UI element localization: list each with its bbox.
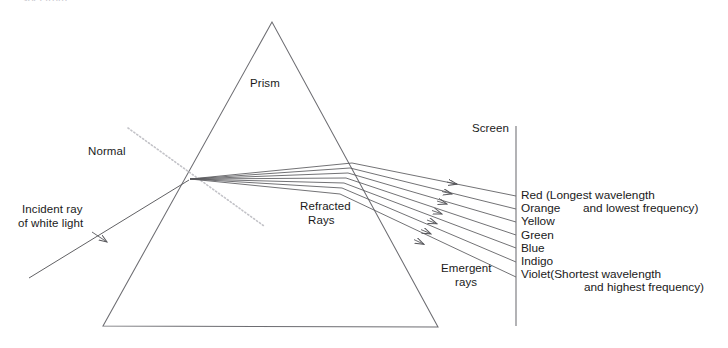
diagram-canvas — [0, 0, 728, 348]
spectrum-name-yellow: Yellow — [521, 214, 555, 228]
red-note-second-line: and lowest frequency) — [583, 202, 698, 215]
spectrum-name-blue: Blue — [521, 241, 545, 255]
incident-ray-label-line1: Incident ray — [22, 203, 83, 216]
spectrum-name-red: Red — [521, 188, 543, 202]
dispersed-rays — [190, 163, 516, 277]
ray-blue — [190, 179, 516, 248]
prism-dispersion-diagram: spectrum — [0, 0, 728, 348]
refracted-rays-label-line1: Refracted — [300, 200, 351, 213]
spectrum-name-violet: Violet — [521, 267, 550, 281]
prism-label: Prism — [250, 77, 280, 90]
normal-label: Normal — [88, 145, 126, 158]
violet-note-second-line: and highest frequency) — [584, 281, 704, 294]
incident-ray-pointer — [92, 232, 107, 242]
ray-red — [190, 163, 516, 196]
spectrum-note-red: (Longest wavelength — [546, 188, 655, 202]
emergent-rays-label-line1: Emergent — [441, 262, 492, 275]
spectrum-name-indigo: Indigo — [521, 254, 553, 268]
emergent-rays-label-line2: rays — [455, 276, 477, 289]
refracted-rays-label-line2: Rays — [308, 214, 335, 227]
screen-label: Screen — [472, 122, 509, 135]
spectrum-name-orange: Orange — [521, 201, 560, 215]
ray-indigo — [190, 179, 516, 262]
incident-ray-label-line2: of white light — [18, 217, 83, 230]
prism-triangle — [103, 22, 438, 327]
spectrum-name-green: Green — [521, 228, 554, 242]
